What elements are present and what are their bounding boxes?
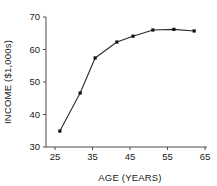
data-point-marker xyxy=(58,129,61,132)
y-tick-label: 60 xyxy=(29,44,40,55)
x-tick-label: 25 xyxy=(50,151,61,162)
data-point-marker xyxy=(172,28,175,31)
x-tick-label: 45 xyxy=(125,151,136,162)
data-point-marker xyxy=(151,28,154,31)
x-tick-label: 65 xyxy=(200,151,211,162)
data-point-marker xyxy=(115,40,118,43)
income-vs-age-chart: 2535455565 3040506070 AGE (YEARS) INCOME… xyxy=(0,0,217,186)
chart-plot-area: 2535455565 3040506070 AGE (YEARS) INCOME… xyxy=(0,0,217,186)
income-trend-line xyxy=(60,29,194,131)
y-tick-label: 40 xyxy=(29,109,40,120)
x-tick-label: 55 xyxy=(162,151,173,162)
y-tick-label: 30 xyxy=(29,141,40,152)
income-series-markers xyxy=(58,28,195,133)
chart-axes xyxy=(46,17,207,147)
x-axis-title: AGE (YEARS) xyxy=(98,172,161,183)
chart-tick-marks xyxy=(43,17,205,150)
data-point-marker xyxy=(94,56,97,59)
data-point-marker xyxy=(131,35,134,38)
data-point-marker xyxy=(193,29,196,32)
data-point-marker xyxy=(79,91,82,94)
x-tick-label: 35 xyxy=(87,151,98,162)
y-tick-label: 70 xyxy=(29,11,40,22)
y-axis-tick-labels: 3040506070 xyxy=(29,11,40,152)
y-tick-label: 50 xyxy=(29,76,40,87)
income-series xyxy=(60,29,194,131)
y-axis-title: INCOME ($1,000s) xyxy=(2,40,13,124)
x-axis-tick-labels: 2535455565 xyxy=(50,151,211,162)
